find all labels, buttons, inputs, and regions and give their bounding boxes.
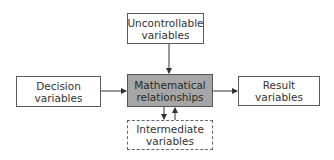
intermediate-variables-box: Intermediate variables — [127, 120, 213, 150]
mathematical-relationships-box: Mathematical relationships — [127, 74, 213, 107]
intermediate-variables-label: Intermediate variables — [136, 123, 204, 147]
mathematical-relationships-label: Mathematical relationships — [134, 79, 206, 103]
result-variables-label: Result variables — [255, 79, 303, 103]
decision-variables-label: Decision variables — [35, 80, 83, 104]
uncontrollable-variables-box: Uncontrollable variables — [127, 13, 204, 44]
uncontrollable-variables-label: Uncontrollable variables — [127, 17, 203, 41]
result-variables-box: Result variables — [238, 76, 320, 106]
decision-variables-box: Decision variables — [16, 76, 101, 107]
